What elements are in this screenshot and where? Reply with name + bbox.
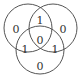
venn-canvas: 0 1 0 0 1 1 0 (0, 0, 81, 79)
region-abc-label: 0 (37, 34, 44, 47)
region-c-only-label: 0 (37, 60, 44, 73)
venn-diagram: 0 1 0 0 1 1 0 (0, 0, 81, 79)
region-ac-label: 1 (22, 43, 29, 56)
region-b-only-label: 0 (60, 23, 67, 36)
region-bc-label: 1 (52, 43, 59, 56)
region-ab-label: 1 (37, 14, 44, 27)
region-a-only-label: 0 (13, 23, 20, 36)
